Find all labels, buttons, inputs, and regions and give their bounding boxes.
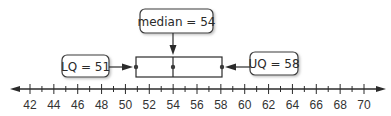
- median-point: [171, 65, 175, 69]
- tick-label: 42: [23, 98, 37, 112]
- tick-label: 64: [286, 98, 300, 112]
- tick-label: 68: [333, 98, 347, 112]
- tick-label: 48: [95, 98, 109, 112]
- axis-tick-labels: 424446485052545658606264666870: [23, 98, 371, 112]
- tick-label: 56: [190, 98, 204, 112]
- right-arrow-icon: [376, 86, 386, 92]
- tick-label: 50: [119, 98, 133, 112]
- lq-label: LQ = 51: [61, 60, 110, 74]
- lq-point: [134, 65, 138, 69]
- tick-label: 46: [71, 98, 85, 112]
- tick-label: 54: [166, 98, 180, 112]
- tick-label: 66: [310, 98, 324, 112]
- median-callout: median = 54: [138, 9, 216, 55]
- tick-label: 52: [143, 98, 157, 112]
- uq-callout: UQ = 58: [225, 52, 300, 75]
- uq-point: [220, 65, 224, 69]
- box-plot-diagram: 424446485052545658606264666870 median = …: [0, 0, 391, 116]
- tick-label: 70: [357, 98, 371, 112]
- lq-callout: LQ = 51: [61, 55, 133, 77]
- left-arrow-icon: [10, 86, 20, 92]
- median-label: median = 54: [138, 15, 216, 29]
- arrow-right-icon: [122, 64, 133, 71]
- tick-label: 60: [238, 98, 252, 112]
- tick-label: 62: [262, 98, 276, 112]
- tick-label: 44: [47, 98, 61, 112]
- tick-label: 58: [214, 98, 228, 112]
- arrow-left-icon: [225, 64, 236, 71]
- number-line: 424446485052545658606264666870: [10, 84, 386, 112]
- arrow-down-icon: [170, 45, 177, 55]
- box: [134, 57, 224, 77]
- uq-label: UQ = 58: [248, 57, 299, 71]
